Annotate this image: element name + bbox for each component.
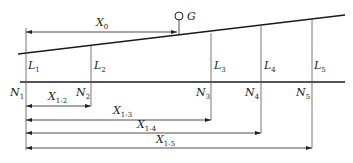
- label-X1-3: X1-3: [112, 104, 132, 119]
- measurement-diagram: L1N1L2N2L3N3L4N4L5N5X0GX1-2X1-3X1-4X1-5: [0, 0, 353, 163]
- label-N1: N1: [9, 86, 24, 101]
- label-L4: L4: [263, 59, 276, 74]
- sloped-line: [18, 15, 345, 54]
- label-N2: N2: [75, 86, 90, 101]
- label-N5: N5: [295, 86, 310, 101]
- label-N4: N4: [244, 86, 260, 101]
- label-L3: L3: [213, 59, 226, 74]
- label-L5: L5: [313, 59, 326, 74]
- label-L1: L1: [27, 59, 40, 74]
- gauge-circle-icon: [175, 12, 183, 20]
- label-G: G: [187, 10, 196, 23]
- label-X1-5: X1-5: [155, 133, 175, 148]
- label-N3: N3: [195, 86, 210, 101]
- label-X1-2: X1-2: [47, 90, 67, 105]
- label-L2: L2: [93, 59, 106, 74]
- label-X0: X0: [95, 16, 108, 31]
